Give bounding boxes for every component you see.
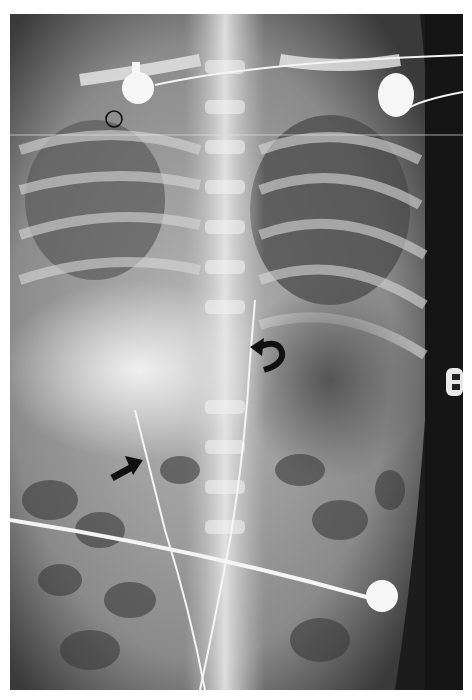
xray-drawing <box>10 14 463 690</box>
side-clip <box>446 368 463 396</box>
radiograph-image <box>10 14 463 690</box>
